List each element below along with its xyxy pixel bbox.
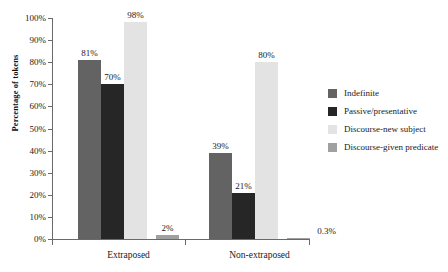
legend-item-label: Discourse-given predicate xyxy=(344,142,438,153)
y-axis-tick xyxy=(48,129,52,130)
legend-item[interactable]: Discourse-new subject xyxy=(328,124,446,135)
bar-chart: Percentage of tokens 0%10%20%30%40%50%60… xyxy=(0,0,448,272)
y-axis-tick-label: 20% xyxy=(30,190,47,200)
legend-item[interactable]: Discourse-given predicate xyxy=(328,142,446,153)
y-axis-tick-label: 60% xyxy=(30,101,47,111)
y-axis-tick xyxy=(48,195,52,196)
legend-item-label: Indefinite xyxy=(344,88,379,99)
x-axis-tick xyxy=(309,240,310,245)
y-axis-tick-label: 30% xyxy=(30,168,47,178)
y-axis-tick-label: 80% xyxy=(30,57,47,67)
legend-swatch-icon xyxy=(328,107,337,116)
bar-value-label: 80% xyxy=(258,50,275,60)
bar: 98% xyxy=(124,22,147,239)
bar: 21% xyxy=(232,193,255,239)
y-axis-tick xyxy=(48,173,52,174)
x-axis-tick xyxy=(52,240,53,245)
y-axis-tick xyxy=(48,217,52,218)
bar: 0.3% xyxy=(287,238,310,239)
y-axis-tick-label: 50% xyxy=(30,124,47,134)
bar-value-label: 81% xyxy=(81,48,98,58)
y-axis-tick-label: 0% xyxy=(34,234,46,244)
bar-value-label: 70% xyxy=(104,72,121,82)
legend-item-label: Passive/presentative xyxy=(344,106,417,117)
bar: 39% xyxy=(209,153,232,239)
chart-legend: IndefinitePassive/presentativeDiscourse-… xyxy=(328,88,446,160)
bar: 81% xyxy=(78,60,101,239)
y-axis-tick xyxy=(48,151,52,152)
x-axis-group-label: Extraposed xyxy=(107,250,150,260)
y-axis-tick-label: 40% xyxy=(30,146,47,156)
y-axis-tick-label: 90% xyxy=(30,35,47,45)
y-axis-tick xyxy=(48,84,52,85)
y-axis-tick xyxy=(48,62,52,63)
y-axis-tick xyxy=(48,106,52,107)
x-axis-tick xyxy=(185,240,186,245)
legend-swatch-icon xyxy=(328,89,337,98)
bar-value-label: 98% xyxy=(127,10,144,20)
y-axis-title: Percentage of tokens xyxy=(10,33,20,153)
bar: 2% xyxy=(156,235,179,239)
legend-swatch-icon xyxy=(328,125,337,134)
bar-value-label: 2% xyxy=(162,223,174,233)
y-axis-tick-label: 100% xyxy=(25,13,46,23)
bar: 70% xyxy=(101,84,124,239)
legend-swatch-icon xyxy=(328,143,337,152)
legend-item-label: Discourse-new subject xyxy=(344,124,426,135)
y-axis-tick-label: 10% xyxy=(30,212,47,222)
legend-item[interactable]: Passive/presentative xyxy=(328,106,446,117)
legend-item[interactable]: Indefinite xyxy=(328,88,446,99)
bar-value-label: 0.3% xyxy=(317,226,336,236)
y-axis-line xyxy=(52,18,53,240)
plot-area: 0%10%20%30%40%50%60%70%80%90%100% 81%70%… xyxy=(52,18,310,240)
bar-value-label: 21% xyxy=(235,181,252,191)
bar-value-label: 39% xyxy=(212,141,229,151)
y-axis-tick-label: 70% xyxy=(30,79,47,89)
bar: 80% xyxy=(255,62,278,239)
y-axis-tick xyxy=(48,18,52,19)
x-axis-group-label: Non-extraposed xyxy=(229,250,290,260)
y-axis-tick xyxy=(48,40,52,41)
x-axis-line xyxy=(52,239,310,240)
